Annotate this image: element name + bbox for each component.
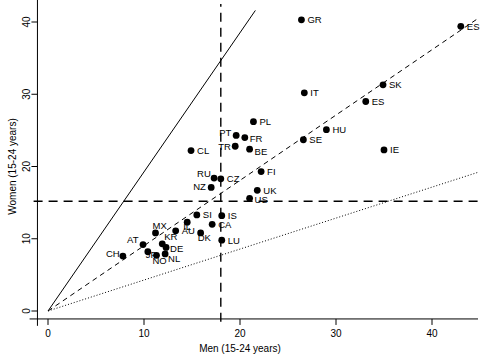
data-point-label: KR [164, 231, 177, 242]
plot-area: 010203040010203040 GRESSKITESHUSEPLPTFRT… [0, 0, 483, 357]
axes [30, 0, 478, 326]
data-point [301, 89, 308, 96]
data-point [208, 184, 215, 191]
data-point-label: IT [310, 87, 319, 98]
data-point [211, 175, 218, 182]
data-point [298, 16, 305, 23]
data-point [119, 253, 126, 260]
data-point-label: CL [197, 145, 209, 156]
y-tick-label: 30 [21, 88, 32, 100]
data-point-label: ES [467, 21, 480, 32]
guide-lines [34, 4, 480, 322]
parity-ray [48, 18, 478, 311]
data-point [232, 143, 239, 150]
data-point [380, 81, 387, 88]
data-point [246, 195, 253, 202]
x-tick-label: 0 [45, 328, 51, 339]
data-point [381, 146, 388, 153]
data-point-label: FR [250, 133, 263, 144]
data-point-label: SI [203, 209, 212, 220]
data-point-label: DK [198, 232, 212, 243]
scatter-chart: 010203040010203040 GRESSKITESHUSEPLPTFRT… [0, 0, 483, 357]
y-tick-label: 10 [21, 233, 32, 245]
data-point-label: LU [228, 235, 240, 246]
data-point [209, 221, 216, 228]
data-point-label: AU [182, 225, 195, 236]
data-point [323, 126, 330, 133]
data-point-label: NL [168, 253, 180, 264]
data-point [188, 147, 195, 154]
data-point [218, 237, 225, 244]
data-point-label: IE [390, 144, 399, 155]
x-tick-label: 20 [234, 328, 246, 339]
x-tick-label: 10 [138, 328, 150, 339]
x-tick-label: 40 [426, 328, 438, 339]
data-point [300, 136, 307, 143]
reference-lines [48, 10, 478, 311]
data-point-label: PT [219, 127, 231, 138]
data-point-label: RU [197, 168, 211, 179]
data-point-label: GR [307, 14, 321, 25]
y-tick-label: 20 [21, 161, 32, 173]
data-point-label: CH [106, 248, 120, 259]
data-point [362, 98, 369, 105]
data-point-label: PL [259, 116, 271, 127]
y-axis-title: Women (15-24 years) [7, 118, 18, 215]
data-point-label: ES [372, 96, 385, 107]
data-point-label: SE [309, 134, 322, 145]
x-tick-label: 30 [330, 328, 342, 339]
data-point-label: FI [267, 166, 275, 177]
data-point [193, 212, 200, 219]
data-point-label: US [255, 194, 268, 205]
data-point-label: AT [127, 234, 139, 245]
data-point-label: TR [218, 141, 231, 152]
data-point [241, 134, 248, 141]
data-point [140, 241, 147, 248]
data-point-label: CA [218, 219, 232, 230]
data-point-label: HU [332, 124, 346, 135]
data-point [258, 168, 265, 175]
data-point [246, 146, 253, 153]
y-tick-label: 40 [21, 16, 32, 28]
x-axis-title: Men (15-24 years) [199, 343, 281, 354]
data-point [250, 118, 257, 125]
data-point-label: SK [389, 79, 402, 90]
data-point [254, 187, 261, 194]
data-points: GRESSKITESHUSEPLPTFRTRBEIECLFICZRUNZUKUS… [106, 14, 480, 266]
data-point [457, 23, 464, 30]
data-point-label: CZ [227, 173, 240, 184]
data-point [233, 132, 240, 139]
data-point [163, 244, 170, 251]
data-point-label: MX [153, 220, 168, 231]
data-point [217, 175, 224, 182]
data-point-label: NZ [193, 181, 206, 192]
y-tick-label: 0 [21, 308, 32, 314]
data-point-label: BE [255, 146, 268, 157]
